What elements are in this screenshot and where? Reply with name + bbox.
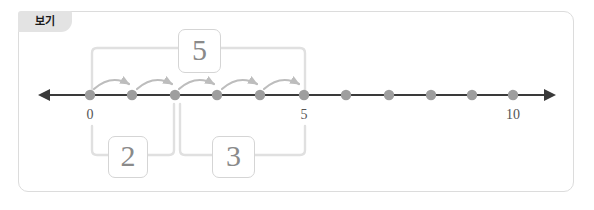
addend-box-2: 3	[212, 136, 255, 178]
number-line-dot	[384, 90, 394, 100]
screenshot-root: 보기	[0, 0, 594, 210]
number-line-dot	[508, 90, 518, 100]
number-line-dot	[467, 90, 477, 100]
number-line-diagram	[0, 0, 594, 210]
hop-arrow-2	[137, 80, 172, 89]
number-line-dot	[426, 90, 436, 100]
tick-label-5: 5	[289, 108, 319, 122]
sum-box: 5	[178, 29, 221, 73]
addend-box-1-value: 2	[121, 141, 136, 171]
addend-box-2-value: 3	[226, 141, 241, 171]
axis-arrowhead-left	[38, 89, 50, 101]
addend-box-1: 2	[108, 136, 148, 178]
number-line-axis	[38, 89, 556, 101]
tick-label-0: 0	[75, 108, 105, 122]
number-line-dot	[170, 90, 180, 100]
sum-box-value: 5	[192, 35, 207, 65]
tick-label-10: 10	[498, 108, 528, 122]
number-line-dot	[341, 90, 351, 100]
hop-arrows	[94, 80, 299, 89]
hop-arrow-3	[179, 80, 214, 89]
number-line-dot	[299, 90, 309, 100]
hop-arrow-5	[264, 80, 299, 89]
number-line-dot	[212, 90, 222, 100]
number-line-dot	[85, 90, 95, 100]
hop-arrow-1	[94, 80, 129, 89]
hop-arrow-4	[222, 80, 257, 89]
number-line-dot	[255, 90, 265, 100]
number-line-dot	[127, 90, 137, 100]
axis-arrowhead-right	[544, 89, 556, 101]
